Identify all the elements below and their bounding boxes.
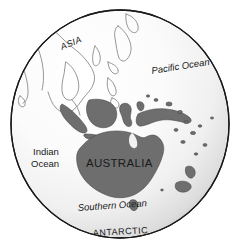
label-australia: AUSTRALIA bbox=[86, 157, 153, 169]
label-indian-ocean-line1: Indian bbox=[33, 146, 59, 157]
island-speck bbox=[181, 141, 185, 144]
globe-map-figure: ASIA Pacific Ocean Indian Ocean AUSTRALI… bbox=[0, 0, 242, 246]
island-speck bbox=[166, 102, 172, 106]
island-speck bbox=[210, 117, 213, 119]
island-speck bbox=[161, 189, 164, 191]
island-speck bbox=[198, 125, 202, 128]
island-speck bbox=[190, 131, 195, 134]
island-speck bbox=[174, 129, 178, 132]
island-speck bbox=[154, 99, 158, 102]
island-speck bbox=[146, 95, 149, 97]
island-speck bbox=[184, 121, 188, 124]
island-speck bbox=[178, 110, 183, 113]
new-zealand-south-landmass bbox=[175, 181, 191, 192]
island-speck bbox=[194, 153, 198, 155]
island-speck bbox=[203, 144, 207, 147]
globe-illustration: ASIA Pacific Ocean Indian Ocean AUSTRALI… bbox=[0, 0, 242, 246]
label-indian-ocean-line2: Ocean bbox=[31, 158, 59, 169]
